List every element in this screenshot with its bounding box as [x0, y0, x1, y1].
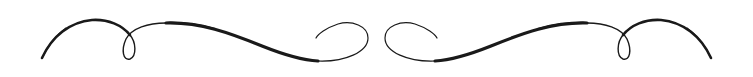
flourish-ornament-icon — [0, 0, 753, 77]
flourish-divider — [0, 0, 753, 77]
flourish-left-icon — [42, 20, 368, 61]
flourish-right-icon — [385, 20, 711, 61]
